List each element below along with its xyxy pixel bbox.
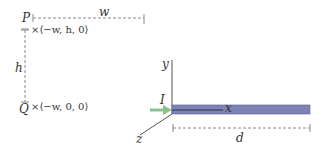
current-label: I [160,94,165,106]
length-label: d [236,132,244,144]
height-label: h [15,62,23,74]
z-axis-label: z [136,133,142,145]
point-q-coords: ×⟨−w, 0, 0⟩ [31,102,88,112]
width-label: w [99,6,109,18]
z-axis [140,114,172,135]
point-q-label: Q [19,103,29,115]
x-axis-label: x [225,102,232,114]
diagram-svg [0,0,322,153]
point-p-coords: ×⟨−w, h, 0⟩ [31,25,88,35]
y-axis-label: y [162,58,169,70]
diagram-canvas: P ×⟨−w, h, 0⟩ w h Q ×⟨−w, 0, 0⟩ y x z I … [0,0,322,153]
point-p-label: P [22,12,30,24]
